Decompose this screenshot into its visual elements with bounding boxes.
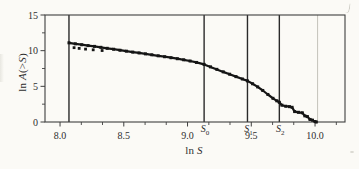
curve-marker: [256, 85, 259, 88]
curve-marker: [306, 115, 309, 118]
y-axis-title: ln A(>S): [16, 13, 31, 133]
x-tick-label: 10.0: [306, 130, 324, 141]
curve-marker: [293, 110, 296, 113]
curve-marker: [195, 61, 198, 64]
y-tick-label: 0: [33, 117, 38, 128]
x-axis-title: ln S: [134, 144, 254, 158]
plot-frame: [45, 15, 345, 122]
curve-marker: [138, 51, 141, 54]
curve-marker: [118, 49, 121, 52]
curve-marker: [182, 58, 185, 61]
curve-marker: [163, 55, 166, 58]
threshold-label-S0: S0: [201, 123, 210, 137]
curve-marker: [203, 63, 206, 66]
curve-marker: [278, 101, 281, 104]
curve-marker: [99, 46, 102, 49]
curve-marker: [144, 52, 147, 55]
x-tick-label: 8.5: [118, 130, 131, 141]
curve-marker: [131, 51, 134, 54]
below-curve-marker: [101, 49, 104, 52]
curve-marker: [251, 82, 254, 85]
curve-marker: [271, 97, 274, 100]
curve-marker: [222, 70, 225, 73]
below-curve-marker: [78, 47, 81, 50]
curve-marker: [261, 89, 264, 92]
curve-marker: [189, 60, 192, 63]
curve-marker: [234, 75, 237, 78]
y-tick-label: 5: [33, 81, 38, 92]
curve-marker: [157, 54, 160, 57]
curve-marker: [266, 93, 269, 96]
below-curve-marker: [73, 46, 76, 49]
y-axis-close-paren: ): [16, 53, 28, 57]
curve-marker: [87, 44, 90, 47]
y-axis-open-paren: (>: [16, 63, 28, 73]
scanned-figure-page: 8.08.59.09.510.0051015S0S1S2 ln A(>S) ln…: [0, 0, 359, 169]
curve-marker: [284, 105, 287, 108]
curve-marker: [125, 50, 128, 53]
y-axis-title-prefix: ln: [16, 80, 28, 92]
y-axis-variable-S: S: [16, 57, 28, 63]
below-curve-marker: [92, 48, 95, 51]
curve-marker: [291, 106, 294, 109]
curve-marker: [74, 42, 77, 45]
curve-marker: [93, 45, 96, 48]
x-axis-variable-S: S: [197, 144, 203, 156]
curve-marker: [106, 47, 109, 50]
curve-marker: [301, 111, 304, 114]
curve-marker: [80, 43, 83, 46]
curve-marker: [209, 65, 212, 68]
y-axis-variable-A: A: [16, 73, 28, 80]
curve-marker: [280, 104, 283, 107]
curve-marker: [215, 68, 218, 71]
below-curve-marker: [84, 48, 87, 51]
curve-marker: [169, 56, 172, 59]
curve-marker: [241, 77, 244, 80]
curve-marker: [176, 57, 179, 60]
curve-marker: [112, 48, 115, 51]
threshold-label-S2: S2: [276, 123, 285, 137]
curve-marker: [228, 73, 231, 76]
curve-marker: [315, 121, 318, 124]
x-axis-title-prefix: ln: [185, 144, 197, 156]
curve-marker: [297, 111, 300, 114]
x-tick-label: 9.0: [181, 130, 194, 141]
curve-marker: [246, 79, 249, 82]
curve-marker: [67, 41, 70, 44]
x-tick-label: 8.0: [54, 130, 67, 141]
curve-marker: [150, 53, 153, 56]
